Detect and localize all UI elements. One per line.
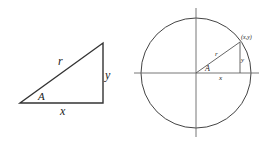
circle-angle-label: A (204, 64, 210, 73)
right-triangle: r y A x (20, 43, 111, 118)
circle-vertical-label: y (240, 56, 245, 64)
unit-circle-diagram: (x,y) r y A x (134, 8, 259, 137)
radius-line (196, 42, 240, 73)
point-label: (x,y) (241, 34, 252, 41)
triangle-horizontal-label: x (59, 104, 66, 118)
circle-horizontal-label: x (218, 74, 223, 82)
triangle-angle-label: A (37, 90, 45, 102)
triangle-hypotenuse-label: r (58, 54, 63, 68)
triangle-vertical-label: y (104, 68, 111, 82)
trig-diagram: r y A x (x,y) r y A x (0, 0, 269, 143)
triangle-shape (20, 43, 103, 103)
circle-hypotenuse-label: r (215, 50, 218, 58)
